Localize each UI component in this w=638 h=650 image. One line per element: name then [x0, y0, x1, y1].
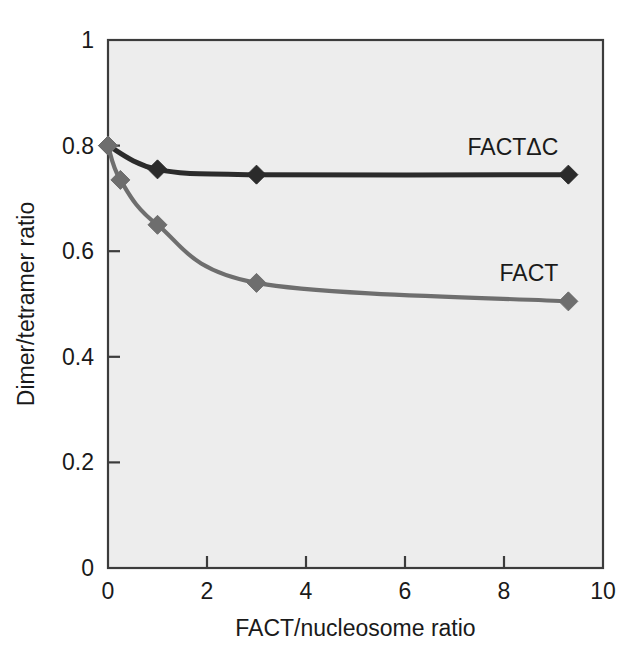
y-tick-label: 0.8	[62, 133, 94, 159]
series-label-factdc: FACTΔC	[468, 134, 559, 160]
y-tick-label: 0	[81, 555, 94, 581]
y-tick-label: 1	[81, 27, 94, 53]
x-tick-label: 2	[201, 578, 214, 604]
figure-container: 0246810 00.20.40.60.81 FACT/nucleosome r…	[0, 0, 638, 650]
x-tick-label: 4	[300, 578, 313, 604]
x-tick-label: 6	[399, 578, 412, 604]
x-tick-label: 8	[498, 578, 511, 604]
series-label-fact: FACT	[500, 260, 559, 286]
x-axis-title: FACT/nucleosome ratio	[235, 615, 475, 641]
y-axis-title: Dimer/tetramer ratio	[13, 202, 39, 406]
chart-svg: 0246810 00.20.40.60.81 FACT/nucleosome r…	[0, 0, 638, 650]
y-tick-label: 0.2	[62, 449, 94, 475]
plot-area-background	[108, 40, 603, 568]
y-tick-label: 0.6	[62, 238, 94, 264]
x-tick-label: 0	[102, 578, 115, 604]
y-tick-label: 0.4	[62, 344, 94, 370]
x-tick-label: 10	[590, 578, 616, 604]
